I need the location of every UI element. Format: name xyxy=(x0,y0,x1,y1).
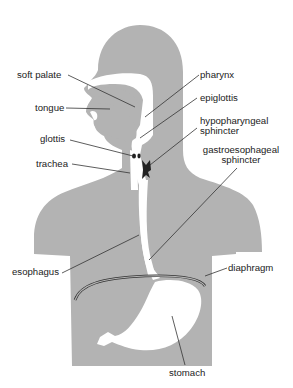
anatomy-figure xyxy=(0,0,293,388)
label-esophagus: esophagus xyxy=(12,267,59,277)
label-stomach: stomach xyxy=(169,368,205,378)
label-diaphragm: diaphragm xyxy=(228,263,273,273)
label-trachea: trachea xyxy=(36,159,68,169)
label-gastroesophageal-sphincter-2: sphincter xyxy=(202,155,280,165)
label-tongue: tongue xyxy=(35,103,64,113)
label-pharynx: pharynx xyxy=(200,70,234,80)
label-soft-palate: soft palate xyxy=(17,70,61,80)
label-epiglottis: epiglottis xyxy=(200,93,238,103)
label-hypopharyngeal-sphincter-2: sphincter xyxy=(200,126,239,136)
label-glottis: glottis xyxy=(40,134,65,144)
